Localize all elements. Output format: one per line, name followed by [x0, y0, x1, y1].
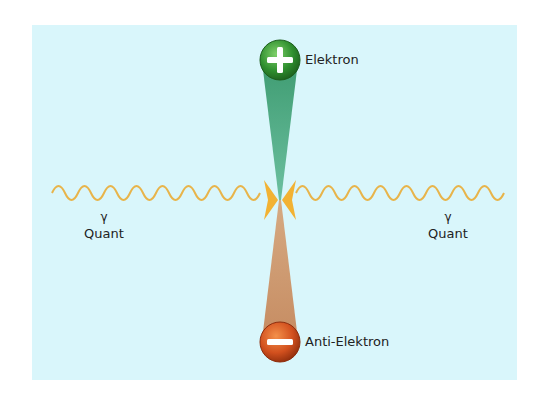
annihilation-diagram [0, 0, 544, 402]
anti-electron-label: Anti-Elektron [305, 334, 389, 349]
minus-icon [267, 339, 293, 345]
right-gamma-symbol: γ [418, 210, 478, 224]
plus-icon-bar [267, 57, 293, 63]
electron-cone [262, 62, 298, 200]
right-arrow-icon [282, 180, 296, 220]
left-gamma-wave [52, 186, 260, 200]
left-arrow-icon [264, 180, 278, 220]
electron-label: Elektron [305, 52, 359, 67]
right-gamma-wave [296, 186, 504, 200]
right-quant-label: Quant [418, 226, 478, 241]
left-gamma-symbol: γ [74, 210, 134, 224]
anti-electron-cone [262, 200, 298, 340]
left-quant-label: Quant [74, 226, 134, 241]
